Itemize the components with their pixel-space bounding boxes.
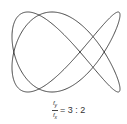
lissajous-path — [12, 12, 120, 92]
frequency-fraction: fy fx — [52, 100, 58, 119]
frequency-ratio-label: fy fx = 3 : 2 — [52, 99, 85, 121]
fraction-bar — [52, 110, 58, 111]
ratio-value: = 3 : 2 — [60, 105, 85, 115]
numerator: fy — [53, 100, 57, 108]
lissajous-curve — [0, 0, 127, 100]
denominator: fx — [53, 112, 57, 120]
